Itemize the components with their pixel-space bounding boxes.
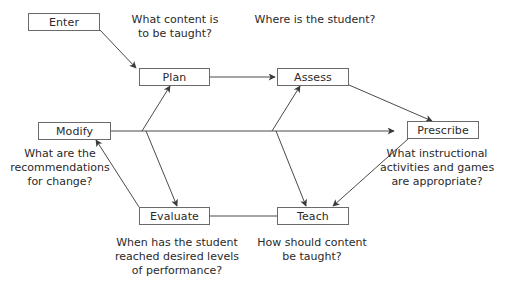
edge-modify-teach — [276, 131, 306, 206]
node-plan-label: Plan — [163, 71, 187, 84]
node-prescribe: Prescribe — [407, 121, 479, 139]
node-enter-label: Enter — [49, 16, 79, 29]
node-modify-label: Modify — [56, 125, 93, 138]
question-plan: What content is to be taught? — [115, 13, 235, 41]
edge-assess-prescribe — [349, 85, 432, 121]
question-teach: How should content be taught? — [252, 236, 372, 264]
node-plan: Plan — [139, 68, 210, 86]
node-assess: Assess — [277, 68, 349, 86]
edge-modify-assess — [272, 86, 300, 131]
node-modify: Modify — [38, 122, 111, 140]
edge-modify-plan — [142, 86, 170, 131]
question-evaluate: When has the student reached desired lev… — [107, 236, 247, 278]
node-prescribe-label: Prescribe — [417, 124, 469, 137]
question-prescribe: What instructional activities and games … — [373, 147, 501, 189]
question-modify: What are the recommendations for change? — [10, 147, 110, 189]
node-enter: Enter — [28, 13, 100, 31]
node-evaluate-label: Evaluate — [150, 210, 199, 223]
node-evaluate: Evaluate — [139, 207, 210, 225]
node-teach-label: Teach — [297, 210, 329, 223]
node-teach: Teach — [277, 207, 349, 225]
edge-modify-evaluate — [146, 131, 177, 206]
instructional-cycle-diagram: Enter Plan Assess Modify Prescribe Evalu… — [0, 0, 507, 287]
question-assess: Where is the student? — [245, 13, 385, 27]
node-assess-label: Assess — [294, 71, 332, 84]
